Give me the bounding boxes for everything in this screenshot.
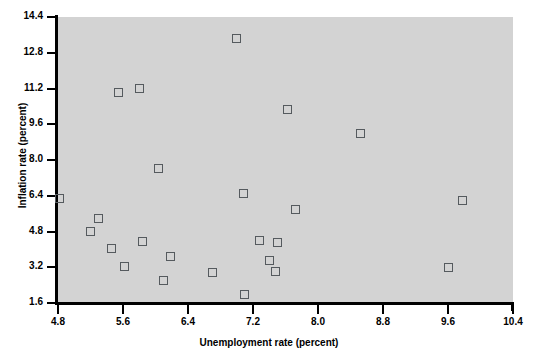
- scatter-point: [120, 262, 129, 271]
- x-axis-tick: [512, 305, 514, 314]
- scatter-point: [458, 196, 467, 205]
- x-axis-tick: [122, 305, 124, 314]
- scatter-point: [208, 268, 217, 277]
- scatter-point: [291, 205, 300, 214]
- x-axis-tick-label: 8.0: [298, 316, 338, 327]
- scatter-point: [283, 105, 292, 114]
- scatter-point: [138, 237, 147, 246]
- scatter-point: [232, 34, 241, 43]
- y-axis-tick: [47, 231, 56, 233]
- scatter-point: [159, 276, 168, 285]
- y-axis-title: Inflation rate (percent): [17, 46, 28, 266]
- scatter-point: [239, 189, 248, 198]
- y-axis-tick: [47, 52, 56, 54]
- plot-area: [58, 17, 513, 303]
- scatter-point: [273, 238, 282, 247]
- x-axis-tick: [317, 305, 319, 314]
- scatter-point: [107, 244, 116, 253]
- y-axis-tick: [47, 266, 56, 268]
- x-axis-tick-label: 8.8: [363, 316, 403, 327]
- x-axis-tick: [382, 305, 384, 314]
- y-axis-tick: [47, 16, 56, 18]
- scatter-point: [135, 84, 144, 93]
- x-axis-tick-label: 6.4: [168, 316, 208, 327]
- scatter-point: [94, 214, 103, 223]
- scatter-point: [240, 290, 249, 299]
- x-axis-tick-label: 7.2: [233, 316, 273, 327]
- x-axis-tick: [447, 305, 449, 314]
- y-axis-tick: [47, 302, 56, 304]
- y-axis-tick-label: 14.4: [0, 10, 43, 21]
- scatter-point: [55, 194, 64, 203]
- y-axis-tick-label: 1.6: [0, 296, 43, 307]
- y-axis-tick: [47, 159, 56, 161]
- scatter-point: [356, 129, 365, 138]
- scatter-point: [86, 227, 95, 236]
- scatter-point: [114, 88, 123, 97]
- x-axis-tick-label: 4.8: [38, 316, 78, 327]
- x-axis-title: Unemployment rate (percent): [0, 337, 538, 348]
- x-axis-tick-label: 10.4: [493, 316, 533, 327]
- x-axis-tick: [57, 305, 59, 314]
- scatter-point: [166, 252, 175, 261]
- scatter-point: [265, 256, 274, 265]
- x-axis-tick-label: 9.6: [428, 316, 468, 327]
- x-axis-tick: [252, 305, 254, 314]
- y-axis-tick: [47, 123, 56, 125]
- scatter-point: [271, 267, 280, 276]
- scatter-point: [255, 236, 264, 245]
- x-axis-tick-label: 5.6: [103, 316, 143, 327]
- x-axis-tick: [187, 305, 189, 314]
- scatter-point: [154, 164, 163, 173]
- scatter-plot-figure: 14.412.811.29.68.06.44.83.21.6 4.85.66.4…: [0, 0, 538, 354]
- scatter-point: [444, 263, 453, 272]
- y-axis-tick: [47, 88, 56, 90]
